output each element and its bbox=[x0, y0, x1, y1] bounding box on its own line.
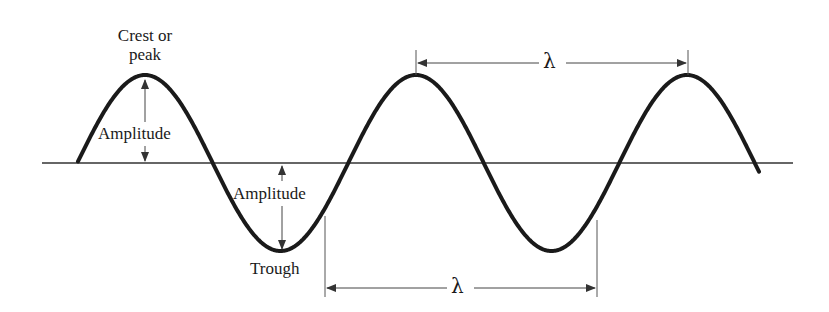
wavelength-label-top: λ bbox=[539, 50, 560, 72]
amplitude-label-crest: Amplitude bbox=[98, 124, 171, 143]
amplitude-label-trough: Amplitude bbox=[233, 184, 306, 203]
crest-label-line1: Crest or bbox=[100, 26, 190, 45]
wave-diagram: Crest or peak Amplitude Amplitude Trough… bbox=[0, 0, 829, 312]
trough-label: Trough bbox=[250, 259, 299, 278]
wavelength-label-bottom: λ bbox=[447, 275, 468, 297]
crest-label-line2: peak bbox=[100, 45, 190, 64]
crest-label: Crest or peak bbox=[100, 26, 190, 64]
